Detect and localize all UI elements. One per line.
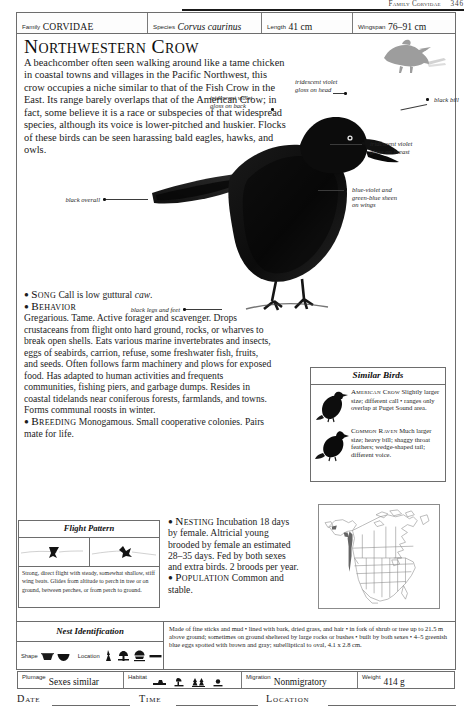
- stat-family: FamilyCORVIDAE: [17, 13, 148, 33]
- nest-location-tree-icon: [103, 650, 114, 662]
- stat-plumage-value: Sexes similar: [49, 677, 99, 687]
- callout-leader-overall: [106, 199, 148, 200]
- range-shading: [332, 526, 353, 572]
- common-raven-description: Common Raven Much larger size; heavy bil…: [350, 427, 442, 463]
- nesting-section: ● Nesting Incubation 18 days by female. …: [168, 516, 300, 572]
- habitat-open-ground-icon: [213, 677, 223, 687]
- callout-leader-head: [333, 93, 344, 94]
- nest-location-ground-icon: [149, 650, 162, 662]
- nest-shape-bowl-icon: [57, 651, 70, 662]
- american-crow-thumbnail: [314, 388, 350, 424]
- similar-birds-box: Similar Birds American Crow Slightly lar…: [310, 367, 446, 482]
- stat-weight-key: Weight: [362, 674, 381, 680]
- nesting-heading: Nesting: [175, 515, 214, 527]
- stat-migration-key: Migration: [246, 674, 271, 680]
- footer-label-time: Time: [139, 693, 161, 704]
- american-crow-description: American Crow Slightly larger size; diff…: [350, 388, 442, 424]
- stat-length: Length41 cm: [262, 13, 353, 33]
- callout-dot-breast: [362, 142, 365, 145]
- running-head-title: Family Corvidae: [388, 0, 440, 8]
- flight-pattern-title: Flight Pattern: [19, 521, 159, 538]
- callout-head-gloss: iridescent violetgloss on head: [295, 78, 337, 93]
- population-heading: Population: [175, 571, 229, 583]
- callout-leader-wing: [318, 190, 344, 191]
- footer-label-location: Location: [266, 693, 309, 704]
- similar-birds-title: Similar Birds: [311, 368, 445, 385]
- callout-black-bill: black bill: [434, 96, 459, 104]
- footer-label-date: Date: [17, 693, 40, 704]
- song-heading: Song: [31, 288, 56, 300]
- footer-rule-date: [52, 705, 130, 706]
- stat-wingspan-value: 76–91 cm: [388, 21, 426, 32]
- similar-bird-entry-american-crow: American Crow Slightly larger size; diff…: [311, 385, 445, 424]
- callout-leader-breast: [330, 144, 362, 145]
- common-raven-thumbnail: [314, 427, 350, 463]
- stat-species: SpeciesCorvus caurinus: [148, 13, 262, 33]
- stat-bar-rule: [17, 33, 455, 34]
- stat-habitat-key: Habitat: [128, 674, 147, 680]
- bullet-nesting: ●: [168, 517, 173, 526]
- flight-pattern-box: Flight Pattern Strong, direct flight wit…: [18, 520, 160, 608]
- field-guide-page: Family Corvidae 346 FamilyCORVIDAE Speci…: [0, 0, 470, 716]
- flying-crow-illustration: [378, 36, 450, 76]
- callout-wing-sheen: blue-violet andgreen-blue sheenon wings: [352, 186, 397, 209]
- bullet-song: ●: [24, 290, 29, 299]
- callout-breast-gloss: iridescent violetgloss on breast: [370, 140, 412, 155]
- flight-pattern-caption: Strong, direct flight with steady, somew…: [19, 567, 159, 594]
- nest-location-label: Location: [78, 653, 100, 659]
- footer-rule-time: [176, 705, 258, 706]
- habitat-shoreline-icon: [153, 677, 166, 686]
- running-head-page: 346: [451, 0, 464, 8]
- nest-identification-icons: Shape Location: [17, 642, 163, 670]
- stat-plumage: Plumage Sexes similar: [18, 672, 124, 688]
- bullet-breeding: ●: [24, 417, 29, 426]
- callout-back-gloss: iridescent violetgloss on back: [210, 94, 252, 109]
- species-account-text: ● Song Call is low guttural caw. ● Behav…: [24, 289, 274, 439]
- flight-pane-left: [19, 538, 90, 566]
- behavior-section: ● Behavior Gregarious. Tame. Active fora…: [24, 301, 274, 416]
- bullet-population: ●: [168, 573, 173, 582]
- stat-weight-value: 414 g: [384, 677, 405, 687]
- callout-dot-head: [344, 92, 347, 95]
- behavior-heading: Behavior: [31, 300, 76, 312]
- stat-migration: Migration Nonmigratory: [242, 672, 358, 688]
- stat-length-key: Length: [267, 23, 286, 30]
- flight-pane-right: [90, 538, 160, 566]
- callout-dot-bill: [426, 98, 429, 101]
- nest-identification-bar: Nest Identification Shape Location: [17, 621, 455, 669]
- page-title: Northwestern Crow: [24, 36, 199, 58]
- nest-identification-left: Nest Identification Shape Location: [17, 622, 164, 669]
- habitat-forest-icon: [192, 677, 205, 687]
- nest-location-bush-icon: [133, 650, 146, 662]
- song-call-italic: caw: [135, 289, 150, 300]
- habitat-icon-group: [153, 677, 223, 687]
- breeding-section: ● Breeding Monogamous. Small cooperative…: [24, 416, 274, 439]
- flight-pattern-panes: [19, 538, 159, 567]
- stat-migration-value: Nonmigratory: [274, 677, 327, 687]
- nest-location-shrub-icon: [117, 650, 130, 662]
- stat-bar-bottom: Plumage Sexes similar Habitat: [17, 671, 455, 689]
- nest-shape-label: Shape: [21, 653, 38, 659]
- song-body: Call is low guttural caw.: [58, 289, 152, 300]
- habitat-wetland-icon: [174, 677, 184, 687]
- nesting-population-text: ● Nesting Incubation 18 days by female. …: [168, 516, 300, 595]
- breeding-heading: Breeding: [31, 415, 76, 427]
- record-footer: Date Time Location: [16, 693, 456, 713]
- stat-family-key: Family: [22, 23, 40, 30]
- population-section: ● Population Common and stable.: [168, 572, 300, 595]
- footer-rule-location: [328, 705, 456, 706]
- header-rule: [182, 9, 464, 11]
- crow-head: [300, 117, 367, 174]
- stat-plumage-key: Plumage: [22, 674, 46, 680]
- stat-length-value: 41 cm: [288, 21, 312, 32]
- bullet-behavior: ●: [24, 302, 29, 311]
- callout-dot-wing: [344, 188, 347, 191]
- stat-family-value: CORVIDAE: [43, 21, 94, 32]
- stat-weight: Weight 414 g: [358, 672, 454, 688]
- nest-identification-text: Made of fine sticks and mud • lined with…: [164, 622, 455, 669]
- nest-shape-cup-icon: [41, 651, 54, 662]
- range-map-svg: [319, 505, 439, 608]
- callout-dot-back: [271, 108, 274, 111]
- american-crow-name: American Crow: [351, 388, 400, 396]
- stat-habitat: Habitat: [124, 672, 242, 688]
